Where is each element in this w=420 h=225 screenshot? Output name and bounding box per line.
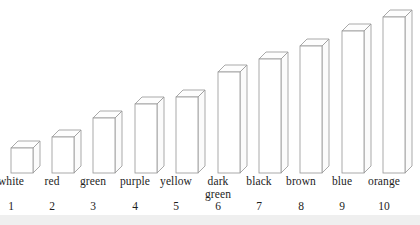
bottom-page-band [0,215,420,225]
bar-side-face [322,39,329,173]
bar-6 [218,65,247,173]
category-labels-row: white red green purple yellow dark green… [0,175,420,203]
bar-front-face [300,46,322,173]
bar-3 [93,111,122,173]
bar-front-face [93,118,115,173]
bar-9 [342,24,371,173]
bar-front-face [218,72,240,173]
bar-front-face [383,17,405,173]
bar-side-face [240,65,247,173]
bar-5 [176,90,205,173]
bar-chart-figure: white red green purple yellow dark green… [0,0,420,225]
bars-svg [0,0,420,175]
bar-2 [52,130,81,173]
bar-side-face [364,24,371,173]
bar-side-face [115,111,122,173]
bar-front-face [135,104,157,173]
bar-8 [300,39,329,173]
bar-side-face [157,97,164,173]
rank-numbers-row: 1 2 3 4 5 6 7 8 9 10 [0,200,420,215]
bar-4 [135,97,164,173]
bar-10 [383,10,412,173]
chart-plot-area [0,0,420,175]
rank-number-10: 10 [354,200,414,213]
bar-front-face [176,97,198,173]
bar-front-face [342,31,364,173]
bar-front-face [11,148,33,173]
bar-side-face [281,52,288,173]
bar-side-face [198,90,205,173]
bar-front-face [52,137,74,173]
category-label-10: orange [354,175,414,188]
bar-1 [11,141,40,173]
bar-7 [259,52,288,173]
bar-side-face [405,10,412,173]
bar-front-face [259,59,281,173]
